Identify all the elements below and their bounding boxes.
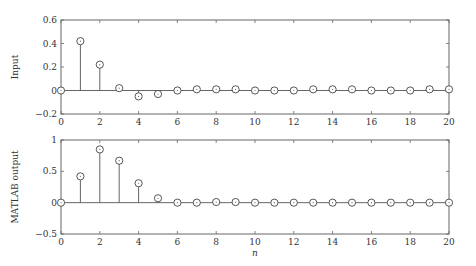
x-tick-label: 4 bbox=[136, 237, 142, 247]
y-tick-label: 0.2 bbox=[43, 62, 57, 72]
input-plot: 02468101214161820−0.200.20.40.6Input bbox=[10, 15, 455, 127]
x-tick-label: 20 bbox=[443, 117, 455, 127]
y-tick-label: 1 bbox=[51, 135, 57, 145]
x-tick-label: 20 bbox=[443, 237, 455, 247]
x-tick-label: 4 bbox=[136, 117, 142, 127]
x-tick-label: 18 bbox=[404, 237, 416, 247]
output-plot: 02468101214161820−0.500.51MATLAB outputn bbox=[10, 135, 455, 258]
x-tick-label: 2 bbox=[97, 117, 103, 127]
x-tick-label: 6 bbox=[175, 117, 181, 127]
x-tick-label: 16 bbox=[366, 237, 378, 247]
axes-box bbox=[61, 20, 449, 114]
x-tick-label: 18 bbox=[404, 117, 416, 127]
y-tick-label: 0.5 bbox=[43, 166, 58, 176]
x-tick-label: 8 bbox=[213, 117, 219, 127]
y-tick-label: 0 bbox=[51, 198, 57, 208]
y-tick-label: −0.5 bbox=[35, 229, 57, 239]
x-tick-label: 12 bbox=[288, 117, 299, 127]
x-tick-label: 10 bbox=[249, 117, 261, 127]
y-tick-label: 0 bbox=[51, 86, 57, 96]
x-tick-label: 12 bbox=[288, 237, 299, 247]
y-tick-label: −0.2 bbox=[35, 109, 57, 119]
y-axis-label: MATLAB output bbox=[10, 150, 20, 224]
x-tick-label: 14 bbox=[327, 237, 339, 247]
y-tick-label: 0.6 bbox=[43, 15, 58, 25]
x-tick-label: 2 bbox=[97, 237, 103, 247]
x-tick-label: 6 bbox=[175, 237, 181, 247]
x-axis-label: n bbox=[252, 248, 258, 258]
x-tick-label: 16 bbox=[366, 117, 378, 127]
x-tick-label: 8 bbox=[213, 237, 219, 247]
x-tick-label: 0 bbox=[58, 237, 64, 247]
x-tick-label: 10 bbox=[249, 237, 261, 247]
x-tick-label: 0 bbox=[58, 117, 64, 127]
stem-chart-figure: 02468101214161820−0.200.20.40.6Input0246… bbox=[0, 0, 476, 266]
x-tick-label: 14 bbox=[327, 117, 339, 127]
y-axis-label: Input bbox=[10, 54, 20, 79]
y-tick-label: 0.4 bbox=[43, 39, 58, 49]
